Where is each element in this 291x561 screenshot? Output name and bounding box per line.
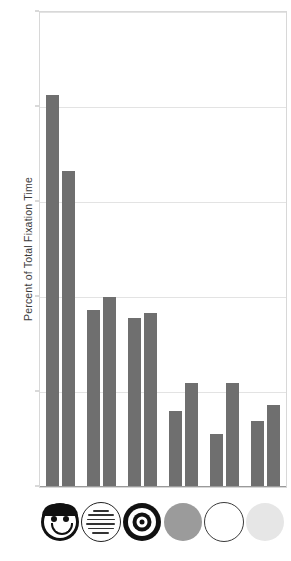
bar [103,297,116,487]
y-tick-mark [35,391,39,392]
x-tick-gray-disc [162,497,203,547]
text-line [88,528,114,530]
y-tick-mark [35,201,39,202]
bar [144,313,157,487]
smiley-face-icon [41,503,79,541]
light-gray-disc-icon [246,503,284,541]
text-circle-icon [81,502,121,542]
text-line [92,532,109,534]
white-disc-icon [204,502,244,542]
text-line [88,514,114,516]
bar [128,318,141,487]
bar [226,383,239,488]
bar-chart-figure: Percent of Total Fixation Time 010203040… [0,0,291,561]
x-tick-text-circle [80,497,121,547]
x-tick-face [39,497,80,547]
y-axis-label: Percent of Total Fixation Time [22,139,34,359]
bar [251,421,264,488]
bar [169,411,182,487]
x-tick-white-disc [203,497,244,547]
text-line [93,510,109,512]
plot-area [39,11,287,488]
bar [87,310,100,487]
gray-disc-icon [164,503,202,541]
bar-series-container [40,12,286,487]
bar [267,405,280,487]
x-tick-bullseye [121,497,162,547]
y-tick-mark [35,106,39,107]
y-tick-mark [35,486,39,487]
y-tick-mark [35,11,39,12]
y-tick-mark [35,296,39,297]
bar [210,434,223,487]
x-tick-light-disc [244,497,285,547]
bullseye-icon [123,503,161,541]
bar [62,171,75,487]
bar [185,383,198,488]
text-line [86,523,115,525]
x-axis-baseline [40,486,286,487]
text-line [87,519,115,521]
bar [46,95,59,487]
x-axis-icon-labels [39,497,287,553]
